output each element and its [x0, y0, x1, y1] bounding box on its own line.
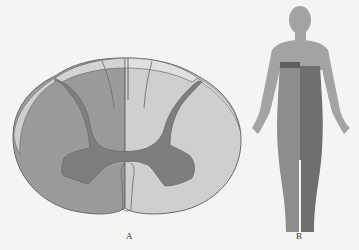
panel-label-a: A [126, 231, 133, 241]
panel-a-spinal-cord-cross-section: A [0, 0, 250, 250]
body-sensory-map [250, 0, 359, 250]
panel-label-b: B [296, 231, 302, 241]
spinal-cord-diagram [0, 0, 250, 250]
panel-b-body-figure: B [250, 0, 359, 250]
